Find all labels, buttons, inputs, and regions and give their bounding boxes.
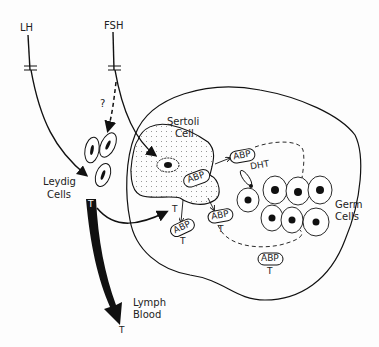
diagram-canvas: LH FSH ? Sertoli Cell Leydig Cells Germ …: [0, 0, 379, 347]
testosterone-output-arrow: [86, 199, 122, 325]
germ-label-line1: Germ: [335, 199, 363, 210]
t-label-abp1: T: [180, 236, 186, 246]
t-label-blood: T: [119, 325, 125, 335]
lh-label: LH: [20, 22, 33, 33]
t-label-sertoli: T: [172, 204, 178, 214]
fsh-label: FSH: [104, 20, 123, 31]
lymph-label: Lymph: [133, 297, 166, 308]
t-label-abp3: T: [267, 266, 273, 276]
germ-label-line2: Cells: [335, 211, 359, 222]
leydig-label-line1: Leydig: [43, 176, 76, 187]
question-mark-label: ?: [100, 98, 105, 109]
sertoli-label-line2: Cell: [175, 128, 194, 139]
blood-label: Blood: [133, 309, 161, 320]
abp-label-3: ABP: [261, 253, 279, 263]
sertoli-label-line1: Sertoli: [167, 116, 199, 127]
leydig-cells-shape: [83, 130, 120, 188]
t-label-abp2: T: [218, 224, 224, 234]
t-label-leydig: T: [88, 199, 94, 209]
leydig-label-line2: Cells: [47, 189, 71, 200]
